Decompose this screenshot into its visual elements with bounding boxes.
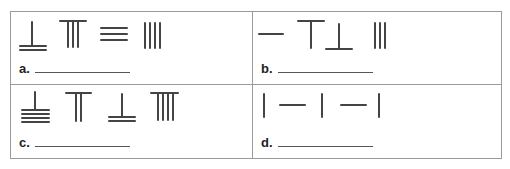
answer-blank[interactable]: [278, 145, 373, 147]
answer-b: b.: [261, 62, 373, 75]
problem-label: a.: [19, 62, 30, 75]
problem-d: d.: [253, 85, 501, 158]
symbol-row-c: [11, 85, 252, 137]
answer-d: d.: [261, 136, 373, 149]
answer-c: c.: [19, 136, 130, 149]
answer-blank[interactable]: [35, 145, 130, 147]
bars-symbol: [101, 28, 127, 40]
problem-c: c.: [11, 85, 253, 158]
problem-b: b.: [253, 12, 501, 85]
problem-a: a.: [11, 12, 253, 85]
answer-a: a.: [19, 62, 130, 75]
rods-under-bar-symbol: [66, 93, 91, 121]
rods-under-bar-symbol: [151, 93, 178, 120]
symbol-row-a: [11, 12, 252, 64]
rods-symbol: [145, 23, 160, 48]
rod-over-bars-symbol: [22, 92, 49, 122]
rod-over-bar-symbol: [326, 24, 352, 49]
problem-label: c.: [19, 136, 30, 149]
rod-under-bar-symbol: [298, 21, 324, 48]
answer-blank[interactable]: [278, 71, 373, 73]
rods-symbol: [375, 23, 385, 48]
symbol-row-d: [253, 85, 501, 137]
answer-blank[interactable]: [35, 71, 130, 73]
worksheet-grid: a.: [10, 11, 502, 159]
symbol-row-b: [253, 12, 501, 64]
rods-under-bar-symbol: [60, 21, 86, 47]
problem-label: b.: [261, 62, 273, 75]
problem-label: d.: [261, 136, 273, 149]
rod-over-bars-symbol: [109, 94, 135, 121]
rod-over-bars-symbol: [20, 22, 46, 50]
